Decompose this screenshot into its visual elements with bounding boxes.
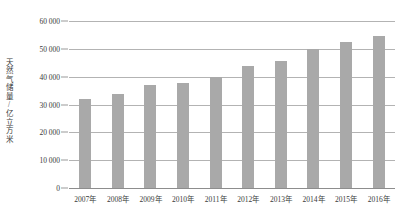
- y-tick-mark: [61, 48, 68, 49]
- x-tick-label: 2009年: [140, 193, 162, 204]
- x-tick-label: 2015年: [335, 193, 357, 204]
- y-axis-title: 天然气储量/亿立方米: [0, 0, 18, 200]
- y-tick-label: 50 000: [39, 44, 60, 53]
- y-tick-label: 10 000: [39, 156, 60, 165]
- y-tick-label: 0: [56, 184, 60, 193]
- x-tick-label: 2014年: [303, 193, 325, 204]
- y-tick-mark: [61, 21, 68, 22]
- bar: [242, 66, 254, 188]
- bar: [144, 85, 156, 188]
- y-tick-label: 40 000: [39, 72, 60, 81]
- y-tick-label: 60 000: [39, 17, 60, 26]
- y-tick-label: 20 000: [39, 128, 60, 137]
- bar-slot: [265, 21, 298, 188]
- y-tick-mark: [61, 160, 68, 161]
- bar: [340, 42, 352, 188]
- bar-slot: [102, 21, 135, 188]
- bar: [275, 61, 287, 188]
- y-tick-label: 30 000: [39, 100, 60, 109]
- x-tick-label: 2013年: [270, 193, 292, 204]
- bar-slot: [297, 21, 330, 188]
- bar: [112, 94, 124, 188]
- bars-group: [69, 21, 395, 188]
- bar-slot: [167, 21, 200, 188]
- bar: [210, 77, 222, 188]
- bar: [373, 36, 385, 188]
- x-tick-label: 2010年: [172, 193, 194, 204]
- y-tick-mark: [61, 104, 68, 105]
- bar-slot: [232, 21, 265, 188]
- x-tick-label: 2007年: [74, 193, 96, 204]
- x-tick-label: 2008年: [107, 193, 129, 204]
- y-tick-mark: [61, 132, 68, 133]
- plot-area: 010 00020 00030 00040 00050 00060 000 20…: [69, 21, 395, 188]
- bar-slot: [69, 21, 102, 188]
- bar: [307, 49, 319, 188]
- bar-slot: [330, 21, 363, 188]
- y-tick-mark: [61, 188, 68, 189]
- bar-slot: [362, 21, 395, 188]
- y-tick-mark: [61, 76, 68, 77]
- x-tick-label: 2011年: [205, 193, 227, 204]
- bar: [177, 83, 189, 188]
- x-tick-label: 2012年: [237, 193, 259, 204]
- bar-slot: [134, 21, 167, 188]
- x-tick-label: 2016年: [368, 193, 390, 204]
- bar: [79, 99, 91, 188]
- bar-slot: [199, 21, 232, 188]
- axis-baseline: [69, 188, 395, 189]
- chart-figure: 天然气储量/亿立方米 010 00020 00030 00040 00050 0…: [0, 0, 409, 219]
